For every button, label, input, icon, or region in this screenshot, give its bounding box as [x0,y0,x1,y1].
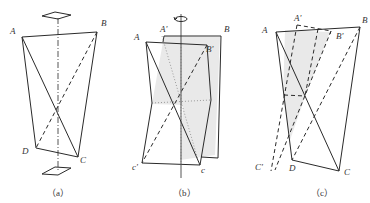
caption-b: （b） [173,188,196,198]
label-c-prime: C' [255,162,264,172]
label-d: D [288,163,296,173]
panel-c: A A' B B' C C' D （c） [255,13,368,198]
edge-ac [22,37,78,157]
label-b: B [224,24,230,34]
shaded-plane [283,30,330,140]
label-b-prime: B' [336,31,344,41]
label-a-prime: A' [159,24,168,34]
square-symbol-top [42,12,71,19]
label-d: D [21,146,29,156]
figure-canvas: A B C D （a） A A' B B' c c' （b） [0,0,370,203]
tetrahedron-outline [22,32,97,157]
label-a-prime: A' [293,13,302,23]
label-b-prime: B' [206,44,214,54]
panel-b: A A' B B' c c' （b） [132,14,230,198]
panel-a: A B C D （a） [9,12,107,198]
label-c-prime: c' [132,162,139,172]
square-symbol-bottom [42,167,71,175]
caption-c: （c） [311,188,333,198]
label-a: A [9,26,16,36]
label-a: A [133,32,140,42]
label-c: C [344,167,351,177]
label-a: A [261,25,268,35]
label-c: c [201,165,205,175]
shaded-plane [152,36,220,160]
caption-a: （a） [47,188,69,198]
label-c: C [80,155,87,165]
label-b: B [362,15,368,25]
label-b: B [101,18,107,28]
